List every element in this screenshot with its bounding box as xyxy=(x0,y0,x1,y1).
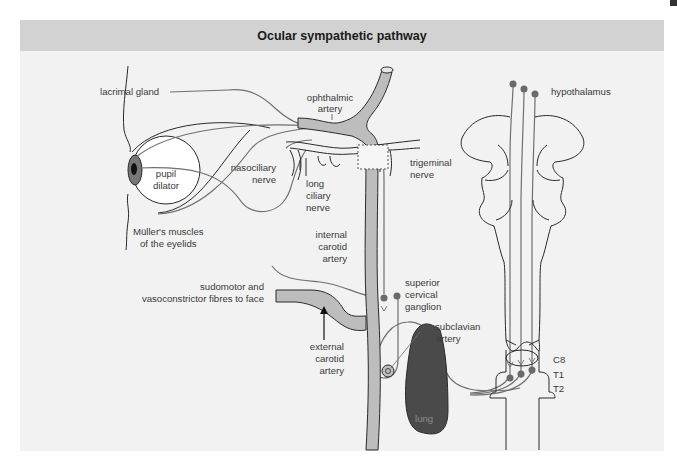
label-internal-carotid-3: artery xyxy=(322,253,347,264)
brainstem xyxy=(461,116,584,450)
label-scg-1: superior xyxy=(405,277,440,288)
spinal-neuron-t2 xyxy=(529,367,536,374)
hypothalamus-neuron-3 xyxy=(532,91,539,98)
label-scg-2: cervical xyxy=(405,289,438,300)
label-nasociliary-nerve-1: nasociliary xyxy=(231,162,277,173)
superior-cervical-ganglion-1 xyxy=(381,295,388,302)
label-pupil-dilator-2: dilator xyxy=(153,180,180,191)
label-sudomotor-1: sudomotor and xyxy=(200,281,264,292)
label-c8: C8 xyxy=(553,354,565,365)
label-pupil-dilator-1: pupil xyxy=(156,168,176,179)
label-lung: lung xyxy=(415,413,433,424)
superior-cervical-ganglion-2 xyxy=(394,293,401,300)
label-long-ciliary-nerve-1: long xyxy=(306,178,324,189)
pathway-diagram: lacrimal gland ophthalmic artery hypotha… xyxy=(0,0,677,472)
hypothalamus-neuron-1 xyxy=(510,81,517,88)
label-internal-carotid-1: internal xyxy=(316,229,347,240)
label-trigeminal-nerve-1: trigeminal xyxy=(410,157,452,168)
label-external-carotid-1: external xyxy=(310,341,344,352)
label-internal-carotid-2: carotid xyxy=(318,241,347,252)
label-ophthalmic-artery-2: artery xyxy=(318,103,343,114)
label-long-ciliary-nerve-2: ciliary xyxy=(306,190,331,201)
label-long-ciliary-nerve-3: nerve xyxy=(306,202,330,213)
label-scg-3: ganglion xyxy=(405,301,441,312)
label-muller-muscles-1: Müller's muscles xyxy=(133,226,204,237)
label-trigeminal-nerve-2: nerve xyxy=(410,169,434,180)
label-nasociliary-nerve-2: nerve xyxy=(252,174,276,185)
hypothalamus-neuron-2 xyxy=(521,86,528,93)
label-external-carotid-2: carotid xyxy=(315,353,344,364)
label-hypothalamus: hypothalamus xyxy=(551,86,611,97)
label-subclavian-1: subclavian xyxy=(435,321,480,332)
external-carotid-artery xyxy=(276,290,366,331)
label-t2: T2 xyxy=(553,383,564,394)
spinal-neuron-c8 xyxy=(507,375,514,382)
label-external-carotid-3: artery xyxy=(319,365,344,376)
label-muller-muscles-2: of the eyelids xyxy=(140,238,197,249)
label-subclavian-2: artery xyxy=(436,333,461,344)
trigeminal-nerve xyxy=(286,140,420,180)
label-lacrimal-gland: lacrimal gland xyxy=(100,86,159,97)
label-ophthalmic-artery-1: ophthalmic xyxy=(307,92,354,103)
label-t1: T1 xyxy=(553,369,564,380)
cavernous-plexus xyxy=(358,145,388,169)
pupil xyxy=(131,163,137,175)
label-sudomotor-2: vasoconstrictor fibres to face xyxy=(142,293,264,304)
spinal-neuron-t1 xyxy=(518,371,525,378)
